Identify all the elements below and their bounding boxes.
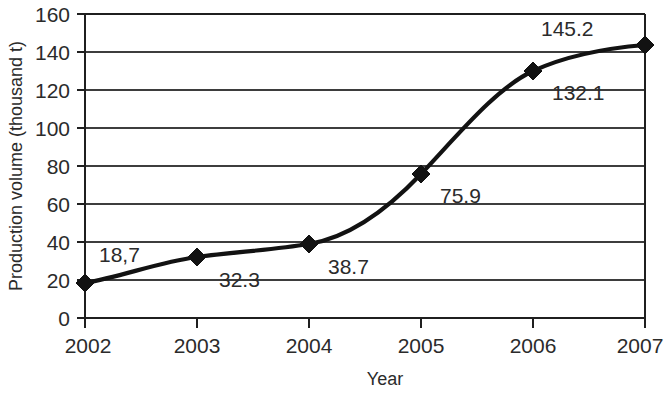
x-axis-title: Year <box>367 369 403 389</box>
data-label-2007: 145.2 <box>541 17 594 40</box>
xtick-label-2003: 2003 <box>174 334 221 357</box>
series-markers <box>76 36 654 292</box>
data-point-labels: 18,7 32.3 38.7 75.9 132.1 145.2 <box>99 17 605 291</box>
xtick-label-2005: 2005 <box>398 334 445 357</box>
ytick-label-40: 40 <box>47 231 70 254</box>
ytick-label-60: 60 <box>47 193 70 216</box>
ytick-label-160: 160 <box>35 3 70 26</box>
line-chart: 160 140 120 100 80 60 40 20 0 2002 2003 … <box>0 0 667 395</box>
data-label-2003: 32.3 <box>219 268 260 291</box>
x-axis-ticks <box>85 318 645 328</box>
xtick-label-2006: 2006 <box>510 334 557 357</box>
xtick-label-2004: 2004 <box>286 334 333 357</box>
chart-figure: 160 140 120 100 80 60 40 20 0 2002 2003 … <box>0 0 667 395</box>
ytick-label-140: 140 <box>35 41 70 64</box>
data-point-2004 <box>300 235 318 253</box>
xtick-label-2007: 2007 <box>617 334 664 357</box>
data-point-2002 <box>76 274 94 292</box>
x-axis-tick-labels: 2002 2003 2004 2005 2006 2007 <box>65 334 664 357</box>
y-axis-tick-labels: 160 140 120 100 80 60 40 20 0 <box>35 3 70 330</box>
data-label-2002: 18,7 <box>99 243 140 266</box>
y-axis-ticks <box>77 14 85 318</box>
ytick-label-120: 120 <box>35 79 70 102</box>
data-point-2006 <box>524 62 542 80</box>
ytick-label-20: 20 <box>47 269 70 292</box>
ytick-label-0: 0 <box>58 307 70 330</box>
data-label-2004: 38.7 <box>328 255 369 278</box>
y-axis-title: Production volume (thousand t) <box>6 41 26 291</box>
data-point-2003 <box>188 248 206 266</box>
ytick-label-100: 100 <box>35 117 70 140</box>
data-label-2005: 75.9 <box>440 184 481 207</box>
data-label-2006: 132.1 <box>552 81 605 104</box>
ytick-label-80: 80 <box>47 155 70 178</box>
xtick-label-2002: 2002 <box>65 334 112 357</box>
